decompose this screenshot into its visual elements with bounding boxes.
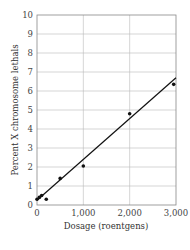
y-tick-label: 4	[28, 124, 33, 134]
y-tick-label: 0	[28, 200, 33, 210]
y-tick-label: 10	[22, 10, 33, 20]
y-tick-label: 1	[28, 181, 33, 191]
x-tick-label: 3,000	[164, 208, 188, 218]
trend-line	[37, 78, 176, 201]
x-axis-label: Dosage (roentgens)	[64, 221, 149, 231]
data-point	[40, 194, 44, 198]
grid-lines	[37, 15, 176, 205]
data-point	[58, 177, 62, 181]
data-point	[172, 83, 176, 87]
y-axis-label: Percent X chromosome lethals	[10, 44, 20, 175]
chart: 012345678910 01,0002,0003,000 Dosage (ro…	[0, 0, 190, 250]
x-axis-ticks: 01,0002,0003,000	[34, 208, 188, 218]
x-tick-label: 0	[34, 208, 39, 218]
y-tick-label: 9	[28, 29, 33, 39]
x-tick-label: 2,000	[117, 208, 141, 218]
y-tick-label: 5	[28, 105, 33, 115]
data-point	[44, 198, 48, 202]
y-tick-label: 3	[28, 143, 33, 153]
x-tick-label: 1,000	[71, 208, 95, 218]
data-point	[82, 164, 86, 168]
y-axis-ticks: 012345678910	[22, 10, 33, 210]
y-tick-label: 2	[28, 162, 33, 172]
y-tick-label: 7	[28, 67, 33, 77]
y-tick-label: 6	[28, 86, 33, 96]
y-tick-label: 8	[28, 48, 33, 58]
data-point	[128, 112, 132, 116]
fit-line	[37, 78, 176, 201]
